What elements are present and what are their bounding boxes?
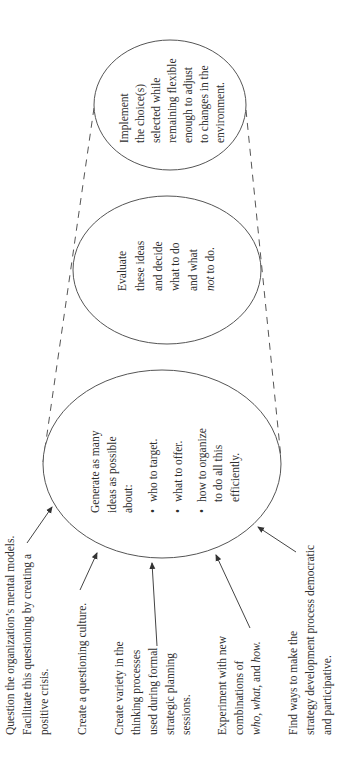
input-question: Question the organization’s mental model… (4, 535, 51, 735)
input-democratic: Find ways to make the strategy developme… (287, 545, 334, 735)
text-line: Generate as many (89, 430, 102, 513)
text-line: how to organize (196, 428, 209, 502)
text-line: efficiently. (229, 453, 242, 502)
text-line: and what (187, 248, 199, 291)
text-line: to changes in the (198, 65, 211, 143)
text-line: Question the organization’s mental model… (4, 535, 17, 735)
italic-word: who, (250, 713, 263, 735)
arrow-question (27, 507, 52, 543)
text-line: who to target. (147, 439, 160, 502)
text-line: the choice(s) (134, 84, 147, 143)
text-line: Evaluate (116, 251, 128, 291)
input-culture: Create a questioning culture. (76, 603, 89, 735)
text-fragment: and (250, 662, 262, 684)
text-line: thinking processes (130, 649, 143, 735)
text-line: sessions. (180, 694, 192, 735)
text-line: these ideas (134, 240, 146, 291)
text-line: what to do (169, 242, 181, 291)
arrow-experiment (216, 555, 250, 628)
italic-word: what, (250, 685, 263, 710)
text-line: Facilitate this questioning by creating … (21, 554, 34, 735)
text-line: selected while (150, 78, 162, 143)
text-line: what to offer. (172, 440, 184, 502)
text-fragment: to do. (204, 247, 216, 276)
italic-word: how. (250, 641, 262, 662)
text-line: who, what, and how. (250, 641, 263, 735)
text-line: strategic planning (164, 653, 177, 735)
diagram-canvas: Implement the choice(s) selected while r… (0, 0, 344, 776)
text-line: enough to adjust (182, 66, 195, 143)
text-line: not to do. (204, 247, 216, 291)
generate-ellipse (43, 370, 281, 558)
text-line: Implement (118, 92, 131, 143)
text-line: environment. (214, 82, 226, 143)
text-line: positive crisis. (38, 668, 51, 735)
text-line: to do all this (212, 444, 224, 502)
text-line: and participative. (321, 655, 334, 735)
text-line: Find ways to make the (287, 631, 300, 735)
text-line: remaining flexible (166, 58, 179, 143)
strategy-process-diagram: Implement the choice(s) selected while r… (0, 0, 344, 776)
bullet-icon: • (147, 509, 159, 513)
italic-word: not (204, 276, 216, 292)
text-line: Experiment with new (216, 635, 229, 735)
text-line: Create variety in the (113, 641, 126, 735)
text-line: about: (122, 484, 134, 513)
input-experiment: Experiment with new combinations of who,… (216, 635, 263, 735)
input-variety: Create variety in the thinking processes… (113, 641, 192, 735)
text-line: ideas as possible (106, 436, 119, 513)
text-line: Create a questioning culture. (76, 603, 89, 735)
text-line: used during formal (147, 647, 160, 735)
bullet-icon: • (172, 509, 184, 513)
arrow-variety (152, 563, 157, 646)
text-line: and decide (152, 242, 164, 292)
evaluate-ellipse (73, 196, 261, 344)
bullet-icon: • (196, 509, 208, 513)
text-line: strategy development process democratic (304, 545, 317, 735)
arrow-culture (80, 553, 97, 590)
text-line: combinations of (233, 660, 245, 735)
arrow-democratic (258, 527, 296, 552)
